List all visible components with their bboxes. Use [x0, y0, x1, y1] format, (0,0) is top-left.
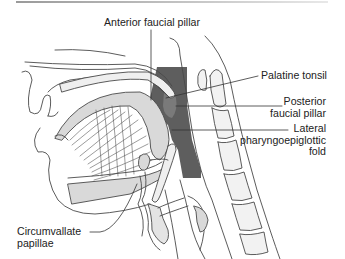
label-palatine-tonsil: Palatine tonsil: [261, 70, 327, 82]
label-lateral-fold-line3: fold: [240, 146, 326, 158]
label-lateral-fold-line1: Lateral: [240, 123, 326, 135]
tongue-dorsum: [55, 92, 169, 160]
label-circumvallate-line2: papillae: [17, 238, 81, 250]
label-posterior-faucial-pillar-line1: Posterior: [270, 96, 326, 108]
label-posterior-faucial-pillar-line2: faucial pillar: [270, 108, 326, 120]
anatomy-diagram: Anterior faucial pillar Palatine tonsil …: [0, 0, 345, 259]
label-posterior-faucial-pillar: Posterior faucial pillar: [270, 96, 326, 119]
label-circumvallate-line1: Circumvallate: [17, 226, 81, 238]
label-circumvallate-papillae: Circumvallate papillae: [17, 226, 81, 249]
label-lateral-pharyngoepiglottic-fold: Lateral pharyngoepiglottic fold: [240, 123, 326, 158]
label-anterior-faucial-pillar: Anterior faucial pillar: [104, 17, 200, 29]
hyoid: [138, 154, 150, 171]
cervical-vertebrae: [198, 69, 268, 254]
